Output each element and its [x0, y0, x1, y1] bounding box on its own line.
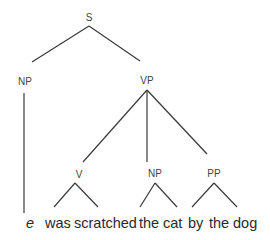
- node-np-object: NP: [148, 168, 162, 179]
- triangle-v-left: [54, 183, 75, 207]
- triangle-pp-right: [214, 183, 237, 207]
- node-vp: VP: [140, 75, 154, 86]
- terminal-the-1: the: [139, 215, 159, 231]
- edge-s-vp: [89, 26, 140, 61]
- terminal-cat: cat: [163, 215, 182, 231]
- terminal-scratched: scratched: [74, 215, 137, 231]
- node-v: V: [76, 169, 83, 180]
- node-np-subject: NP: [18, 76, 32, 87]
- edge-vp-v: [83, 90, 147, 162]
- terminal-empty: e: [26, 215, 34, 231]
- edge-s-np: [32, 26, 89, 62]
- terminal-dog: dog: [233, 215, 257, 231]
- node-pp: PP: [207, 168, 221, 179]
- terminal-by: by: [188, 215, 204, 231]
- syntax-tree-diagram: S NP VP V NP PP e was scratched the cat …: [0, 0, 270, 240]
- terminal-the-2: the: [209, 215, 229, 231]
- terminal-was: was: [44, 215, 71, 231]
- triangle-pp-left: [192, 183, 214, 207]
- triangle-np-left: [140, 183, 155, 207]
- triangle-np-right: [155, 183, 177, 207]
- triangle-v-right: [75, 183, 98, 207]
- edge-vp-pp: [147, 90, 207, 154]
- node-s: S: [86, 12, 93, 23]
